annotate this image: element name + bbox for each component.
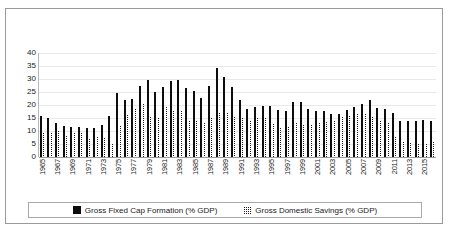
bar-gross-domestic-savings (73, 132, 75, 157)
x-axis-tick-label: 1971 (85, 159, 93, 175)
bar-group (193, 53, 201, 157)
x-axis-tick-label: 1989 (222, 159, 230, 175)
bar-group (346, 53, 354, 157)
bar-gross-domestic-savings (126, 114, 128, 157)
bar-gross-domestic-savings (333, 120, 335, 157)
bar-group (369, 53, 377, 157)
bar-gross-domestic-savings (111, 143, 113, 157)
y-axis-tick-label: 35 (14, 62, 36, 70)
bar-group (323, 53, 331, 157)
bar-group (47, 53, 55, 157)
bar-gross-domestic-savings (417, 143, 419, 157)
legend-label-gds: Gross Domestic Savings (% GDP) (255, 206, 377, 215)
x-axis-tick-label: 1983 (176, 159, 184, 175)
bar-group (162, 53, 170, 157)
bar-group (246, 53, 254, 157)
bar-gross-domestic-savings (180, 110, 182, 157)
bar-group (307, 53, 315, 157)
bar-gross-domestic-savings (195, 120, 197, 157)
bar-group (86, 53, 94, 157)
bar-group (277, 53, 285, 157)
bar-gross-domestic-savings (387, 122, 389, 157)
bar-group (231, 53, 239, 157)
bar-gross-domestic-savings (157, 117, 159, 157)
bar-group (108, 53, 116, 157)
bar-group (131, 53, 139, 157)
bar-group (216, 53, 224, 157)
plot-area (38, 53, 436, 157)
x-axis-tick-label: 1987 (207, 159, 215, 175)
y-axis-tick-label: 25 (14, 88, 36, 96)
bar-gross-domestic-savings (218, 112, 220, 157)
bar-gross-domestic-savings (279, 127, 281, 157)
bar-group (392, 53, 400, 157)
bar-gross-domestic-savings (50, 132, 52, 157)
bar-group (93, 53, 101, 157)
y-axis-tick-label: 10 (14, 127, 36, 135)
bar-group (208, 53, 216, 157)
bar-group (139, 53, 147, 157)
y-axis-tick-label: 40 (14, 49, 36, 57)
bar-gross-domestic-savings (149, 116, 151, 157)
bar-group (300, 53, 308, 157)
x-axis-tick-label: 1981 (161, 159, 169, 175)
bar-group (353, 53, 361, 157)
bar-group (185, 53, 193, 157)
bar-group (177, 53, 185, 157)
bar-group (407, 53, 415, 157)
bar-group (361, 53, 369, 157)
bar-group (101, 53, 109, 157)
bar-gross-domestic-savings (165, 106, 167, 157)
bar-gross-domestic-savings (103, 137, 105, 157)
bar-gross-domestic-savings (57, 130, 59, 157)
bar-group (384, 53, 392, 157)
bar-gross-domestic-savings (42, 132, 44, 157)
y-axis-tick-label: 5 (14, 140, 36, 148)
y-axis-tick-label: 0 (14, 153, 36, 161)
bar-group (40, 53, 48, 157)
x-axis-tick-label: 2003 (329, 159, 337, 175)
bar-group (430, 53, 438, 157)
bar-group (330, 53, 338, 157)
bar-gross-domestic-savings (341, 116, 343, 157)
bar-gross-domestic-savings (264, 117, 266, 157)
bar-group (285, 53, 293, 157)
x-axis-tick-label: 1969 (69, 159, 77, 175)
bar-gross-domestic-savings (302, 124, 304, 157)
bar-gross-domestic-savings (379, 120, 381, 157)
bar-gross-domestic-savings (241, 117, 243, 157)
bar-group (399, 53, 407, 157)
bar-gross-domestic-savings (65, 135, 67, 157)
bar-group (422, 53, 430, 157)
bar-group (63, 53, 71, 157)
x-axis-tick-label: 2001 (314, 159, 322, 175)
bar-group (78, 53, 86, 157)
x-axis-tick-label: 1999 (299, 159, 307, 175)
bar-gross-domestic-savings (287, 126, 289, 157)
bar-gross-domestic-savings (96, 136, 98, 157)
bar-group (223, 53, 231, 157)
bar-gross-domestic-savings (432, 141, 434, 157)
bar-gross-domestic-savings (318, 122, 320, 157)
y-axis-tick-label: 30 (14, 75, 36, 83)
x-axis: 1965196719691971197319751977197919811983… (38, 159, 436, 199)
bar-gross-domestic-savings (371, 116, 373, 157)
bar-group (415, 53, 423, 157)
bar-gross-domestic-savings (295, 122, 297, 157)
bar-group (376, 53, 384, 157)
bar-gross-domestic-savings (233, 116, 235, 157)
bar-group (269, 53, 277, 157)
axis-baseline (39, 157, 436, 158)
x-axis-tick-label: 2011 (391, 159, 399, 174)
bar-gross-domestic-savings (142, 103, 144, 157)
x-axis-tick-label: 1977 (130, 159, 138, 175)
legend-entry-gds: Gross Domestic Savings (% GDP) (243, 206, 377, 215)
bar-group (55, 53, 63, 157)
x-axis-tick-label: 1975 (115, 159, 123, 175)
bar-group (124, 53, 132, 157)
x-axis-tick-label: 1973 (100, 159, 108, 175)
bar-gross-domestic-savings (88, 138, 90, 157)
chart-figure: 0510152025303540 19651967196919711973197… (5, 8, 443, 224)
bar-group (254, 53, 262, 157)
x-axis-tick-label: 1979 (146, 159, 154, 175)
